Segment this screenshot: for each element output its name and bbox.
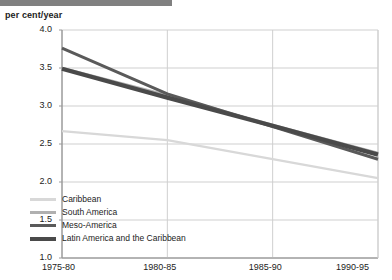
y-axis-tick-label: 4.0 xyxy=(18,24,52,34)
series-line-3 xyxy=(62,69,378,155)
x-axis-tick-label: 1980-85 xyxy=(143,262,176,272)
y-axis-tick-label: 3.5 xyxy=(18,62,52,72)
legend-label: Caribbean xyxy=(62,193,101,206)
legend-label: Meso-America xyxy=(62,219,117,232)
legend-label: Latin America and the Caribbean xyxy=(62,232,186,245)
legend-swatch-icon xyxy=(30,198,56,201)
y-axis-tick-label: 2.0 xyxy=(18,176,52,186)
y-axis-tick-label: 3.0 xyxy=(18,100,52,110)
legend-item-1[interactable]: South America xyxy=(30,206,186,219)
x-axis-tick-label: 1990-95 xyxy=(336,262,369,272)
legend-item-0[interactable]: Caribbean xyxy=(30,193,186,206)
legend-swatch-icon xyxy=(30,224,56,227)
y-axis-tick-label: 2.5 xyxy=(18,138,52,148)
legend-item-2[interactable]: Meso-America xyxy=(30,219,186,232)
chart-legend: CaribbeanSouth AmericaMeso-AmericaLatin … xyxy=(30,193,186,245)
x-axis-tick-label: 1975-80 xyxy=(42,262,75,272)
series-line-0 xyxy=(62,131,378,178)
legend-swatch-icon xyxy=(30,237,56,241)
legend-item-3[interactable]: Latin America and the Caribbean xyxy=(30,232,186,245)
legend-label: South America xyxy=(62,206,117,219)
y-axis-tick-label: 1.0 xyxy=(18,252,52,262)
legend-swatch-icon xyxy=(30,211,56,214)
x-axis-tick-label: 1985-90 xyxy=(249,262,282,272)
